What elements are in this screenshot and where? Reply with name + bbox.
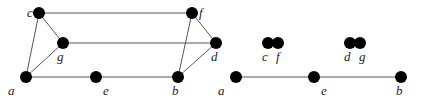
contracted-graph: acfdgeb (218, 37, 407, 98)
node-f (186, 7, 198, 19)
node-label-b: b (172, 83, 179, 98)
node-label-d: d (211, 49, 218, 64)
node-b (395, 71, 407, 83)
node-label-e: e (321, 83, 327, 98)
node-label-b: b (396, 83, 403, 98)
node-b (172, 71, 184, 83)
node-c (33, 7, 45, 19)
node-label-e: e (103, 83, 109, 98)
node-g (354, 37, 366, 49)
node-label-c: c (27, 5, 33, 20)
node-g (57, 37, 69, 49)
node-e (90, 71, 102, 83)
node-a (230, 71, 242, 83)
node-f (272, 37, 284, 49)
node-label-a: a (218, 83, 225, 98)
node-label-d: d (344, 49, 351, 64)
edge-f-b (178, 13, 192, 77)
node-d (210, 37, 222, 49)
diagram-canvas: cfgdaebacfdgeb (0, 0, 422, 100)
node-label-c: c (262, 49, 268, 64)
node-label-a: a (8, 83, 15, 98)
node-label-g: g (359, 49, 366, 64)
node-label-f: f (276, 49, 282, 64)
node-a (20, 71, 32, 83)
node-label-g: g (57, 49, 64, 64)
original-graph: cfgdaeb (8, 5, 222, 98)
graph-diagram: cfgdaebacfdgeb (0, 0, 422, 100)
node-e (308, 71, 320, 83)
node-label-f: f (199, 5, 205, 20)
